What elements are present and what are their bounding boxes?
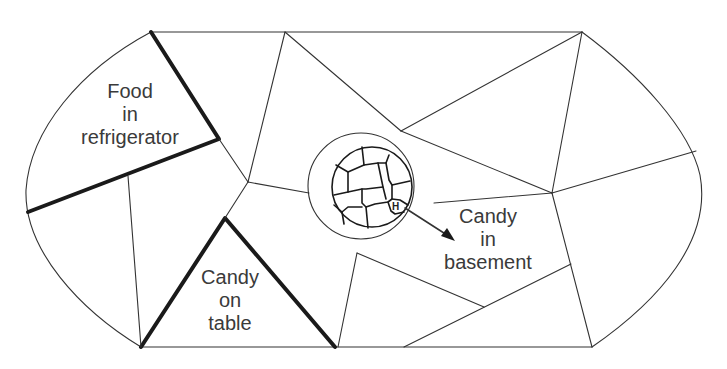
goal-region-map	[0, 0, 727, 369]
label-line: in	[433, 228, 543, 251]
label-food-refrigerator: Food in refrigerator	[70, 80, 190, 149]
label-line: basement	[433, 251, 543, 274]
label-line: refrigerator	[70, 126, 190, 149]
label-candy-basement: Candy in basement	[433, 205, 543, 274]
label-line: Candy	[190, 266, 270, 289]
label-line: Food	[70, 80, 190, 103]
label-line: on	[190, 289, 270, 312]
label-line: table	[190, 312, 270, 335]
label-line: in	[70, 103, 190, 126]
label-line: Candy	[433, 205, 543, 228]
label-candy-table: Candy on table	[190, 266, 270, 335]
central-circle	[308, 133, 414, 239]
marker-h: H	[392, 201, 399, 212]
